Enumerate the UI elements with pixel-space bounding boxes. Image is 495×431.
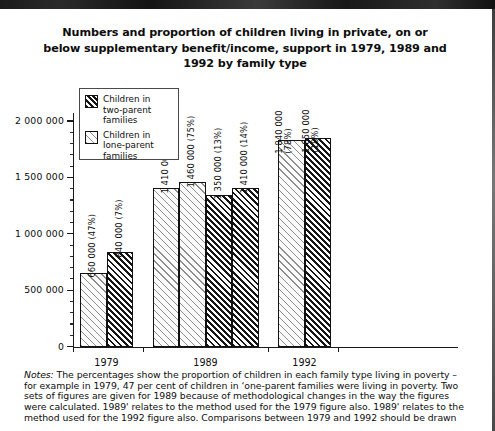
legend-swatch-sparse-hatch-icon [85, 131, 98, 144]
bar-value-label: 1 460 000 (75%) [187, 116, 197, 188]
bar-value-label-line-2: (18%) [310, 127, 320, 153]
legend-label-lone-parent-line-1: Children in [103, 130, 150, 140]
bar-1989-lone-parent-3 [179, 182, 206, 347]
legend-item-lone-parent: Children in lone-parent families [85, 130, 173, 162]
bar-1992-two-parent-7 [305, 138, 332, 347]
scan-artifact-top-edge [0, 0, 495, 9]
legend-item-two-parent: Children in two-parent families [85, 94, 173, 126]
chart-notes-body: The percentages show the proportion of c… [24, 369, 464, 423]
chart-legend: Children in two-parent families Children… [79, 88, 179, 160]
legend-label-lone-parent-line-3: families [103, 151, 137, 161]
x-axis-label-1989: 1989 [176, 357, 236, 368]
legend-label-two-parent-line-2: two-parent [103, 105, 151, 115]
chart-notes-label: Notes: [24, 369, 54, 380]
legend-label-two-parent-line-3: families [103, 115, 137, 125]
bar-value-label: 1 350 000 (13%) [214, 128, 224, 200]
x-tick [143, 347, 144, 352]
bar-1992-lone-parent-6 [278, 140, 305, 347]
x-tick [338, 347, 339, 352]
bar-value-label: 1 840 000(78%) [275, 110, 294, 154]
bar-value-label-line-2: (78%) [284, 128, 294, 154]
bar-1989-lone-parent-2 [153, 188, 180, 347]
bar-1979-two-parent-1 [107, 252, 134, 347]
chart-notes: Notes: The percentages show the proporti… [24, 370, 472, 424]
bar-1989-two-parent-5 [232, 188, 259, 347]
legend-swatch-dense-hatch-icon [85, 95, 98, 108]
x-axis-label-1979: 1979 [77, 357, 137, 368]
legend-label-two-parent-line-1: Children in [103, 94, 150, 104]
chart-plot-area: 2 000 0001 500 0001 000 000500 0000 660 … [0, 9, 490, 431]
chart-notes-paragraph: Notes: The percentages show the proporti… [24, 370, 472, 424]
page-content: Numbers and proportion of children livin… [0, 9, 490, 431]
legend-label-lone-parent: Children in lone-parent families [103, 130, 154, 162]
bar-1989-two-parent-4 [206, 195, 233, 347]
bar-1979-lone-parent-0 [80, 273, 107, 347]
bar-value-label: 1 410 000 (14%) [240, 121, 250, 193]
legend-label-two-parent: Children in two-parent families [103, 94, 151, 126]
scanned-page: Numbers and proportion of children livin… [0, 0, 495, 431]
bar-value-label: 1 850 000(18%) [302, 109, 321, 153]
bar-value-label: 660 000 (47%) [88, 214, 98, 278]
bar-value-label: 840 000 (7%) [115, 199, 125, 257]
x-tick [73, 347, 74, 352]
bar-value-label-line-1: 1 850 000 [301, 109, 311, 153]
x-axis-label-1992: 1992 [275, 357, 335, 368]
legend-label-lone-parent-line-2: lone-parent [103, 140, 154, 150]
x-tick [268, 347, 269, 352]
